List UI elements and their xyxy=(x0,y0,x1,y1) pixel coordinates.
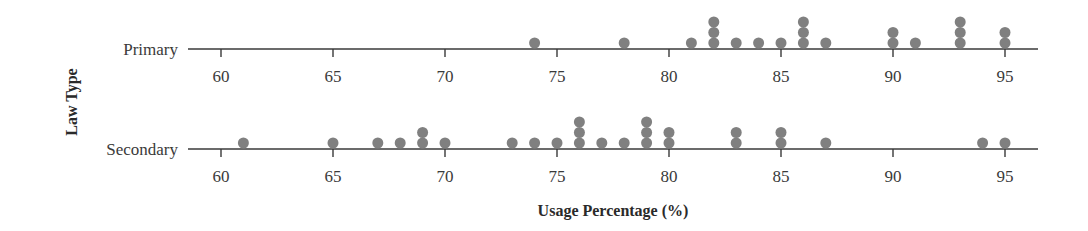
data-dot xyxy=(820,38,831,49)
data-dot xyxy=(641,127,652,138)
x-tick-label: 95 xyxy=(997,167,1014,186)
data-dot xyxy=(955,38,966,49)
x-tick-label: 60 xyxy=(213,167,230,186)
x-tick-label: 60 xyxy=(213,67,230,86)
x-tick-label: 75 xyxy=(549,167,566,186)
x-tick-label: 80 xyxy=(661,67,678,86)
data-dot xyxy=(417,138,428,149)
data-dot xyxy=(776,138,787,149)
data-dot xyxy=(529,138,540,149)
x-axis-title: Usage Percentage (%) xyxy=(538,202,689,220)
x-tick-label: 75 xyxy=(549,67,566,86)
data-dot xyxy=(641,117,652,128)
data-dot xyxy=(708,17,719,28)
data-dot xyxy=(507,138,518,149)
primary-dots xyxy=(529,17,1010,49)
data-dot xyxy=(888,27,899,38)
data-dot xyxy=(708,27,719,38)
data-dot xyxy=(731,38,742,49)
category-label-secondary: Secondary xyxy=(106,140,178,159)
data-dot xyxy=(820,138,831,149)
data-dot xyxy=(955,17,966,28)
data-dot xyxy=(798,27,809,38)
data-dot xyxy=(708,38,719,49)
data-dot xyxy=(417,127,428,138)
x-tick-label: 65 xyxy=(325,67,342,86)
data-dot xyxy=(1000,138,1011,149)
data-dot xyxy=(574,117,585,128)
data-dot xyxy=(440,138,451,149)
data-dot xyxy=(372,138,383,149)
data-dot xyxy=(574,138,585,149)
x-tick-label: 80 xyxy=(661,167,678,186)
data-dot xyxy=(888,38,899,49)
x-tick-label: 90 xyxy=(885,67,902,86)
x-tick-label: 85 xyxy=(773,67,790,86)
x-tick-label: 70 xyxy=(437,167,454,186)
x-tick-label: 70 xyxy=(437,67,454,86)
x-tick-label: 65 xyxy=(325,167,342,186)
secondary-x-ticks: 6065707580859095 xyxy=(213,149,1014,186)
data-dot xyxy=(328,138,339,149)
category-label-primary: Primary xyxy=(123,40,178,59)
data-dot xyxy=(753,38,764,49)
data-dot xyxy=(798,17,809,28)
data-dot xyxy=(574,127,585,138)
data-dot xyxy=(910,38,921,49)
data-dot xyxy=(798,38,809,49)
y-axis-title: Law Type xyxy=(63,68,81,135)
data-dot xyxy=(731,127,742,138)
data-dot xyxy=(238,138,249,149)
data-dot xyxy=(686,38,697,49)
data-dot xyxy=(776,38,787,49)
data-dot xyxy=(776,127,787,138)
data-dot xyxy=(1000,27,1011,38)
secondary-dots xyxy=(238,117,1011,149)
data-dot xyxy=(619,38,630,49)
data-dot xyxy=(619,138,630,149)
data-dot xyxy=(395,138,406,149)
data-dot xyxy=(664,138,675,149)
dot-plot-chart: Law Type Usage Percentage (%) Primary 60… xyxy=(0,0,1088,231)
data-dot xyxy=(955,27,966,38)
data-dot xyxy=(731,138,742,149)
x-tick-label: 85 xyxy=(773,167,790,186)
x-tick-label: 90 xyxy=(885,167,902,186)
data-dot xyxy=(1000,38,1011,49)
data-dot xyxy=(596,138,607,149)
row-primary: Primary 6065707580859095 xyxy=(123,17,1038,87)
primary-x-ticks: 6065707580859095 xyxy=(213,49,1014,86)
data-dot xyxy=(977,138,988,149)
data-dot xyxy=(529,38,540,49)
data-dot xyxy=(641,138,652,149)
data-dot xyxy=(552,138,563,149)
data-dot xyxy=(664,127,675,138)
row-secondary: Secondary 6065707580859095 xyxy=(106,117,1038,187)
x-tick-label: 95 xyxy=(997,67,1014,86)
